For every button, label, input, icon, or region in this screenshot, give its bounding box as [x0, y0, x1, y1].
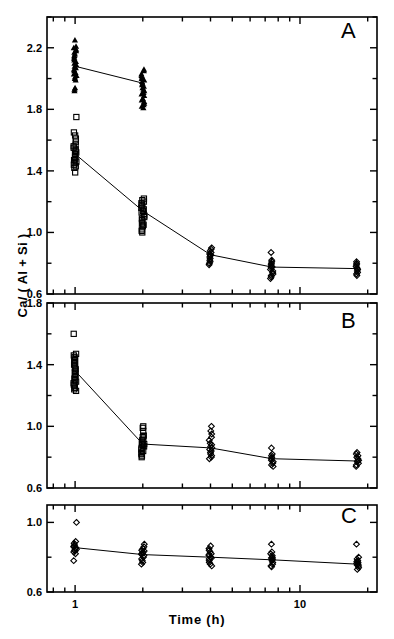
x-tick-label: 1	[61, 598, 89, 610]
y-tick-label: 1.0	[8, 420, 42, 432]
plot-svg	[0, 0, 394, 639]
y-tick-label: 0.6	[8, 586, 42, 598]
y-tick-label: 1.4	[8, 359, 42, 371]
y-tick-label: 2.2	[8, 42, 42, 54]
y-tick-label: 1.0	[8, 516, 42, 528]
x-tick-label: 10	[286, 598, 314, 610]
data-point	[72, 37, 78, 43]
y-tick-label: 1.4	[8, 165, 42, 177]
data-point	[269, 541, 275, 547]
data-point	[71, 331, 76, 336]
data-point	[74, 114, 79, 119]
y-tick-label: 0.6	[8, 482, 42, 494]
figure-container: Ca/ ( Al + Si ) Time (h) A B C 0.61.01.4…	[0, 0, 394, 639]
y-tick-label: 1.8	[8, 297, 42, 309]
data-point	[268, 250, 274, 256]
data-point	[354, 541, 360, 547]
y-tick-label: 1.8	[8, 103, 42, 115]
data-point	[74, 520, 80, 526]
data-point	[71, 558, 77, 564]
y-tick-label: 1.0	[8, 226, 42, 238]
data-point	[269, 445, 275, 451]
